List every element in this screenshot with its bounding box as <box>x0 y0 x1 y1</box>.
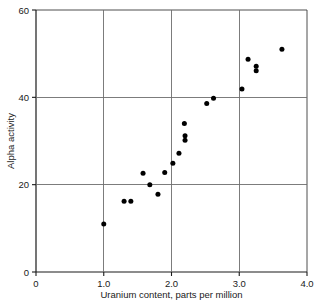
data-point <box>279 47 284 52</box>
data-point <box>254 64 259 69</box>
data-point <box>122 199 127 204</box>
data-point <box>147 182 152 187</box>
data-point <box>246 57 251 62</box>
data-point <box>239 87 244 92</box>
x-axis-title: Uranium content, parts per million <box>100 289 242 300</box>
data-point <box>204 101 209 106</box>
x-tick-label: 0 <box>33 278 38 289</box>
data-point <box>162 170 167 175</box>
y-tick-label: 40 <box>18 92 29 103</box>
data-point <box>101 221 106 226</box>
data-point-series <box>101 47 284 227</box>
y-axis-title: Alpha activity <box>5 113 16 169</box>
scatter-chart-figure: 0204060 01.02.03.04.0 Uranium content, p… <box>0 0 322 305</box>
data-point <box>141 171 146 176</box>
data-point <box>211 96 216 101</box>
y-tick-label: 20 <box>18 179 29 190</box>
x-tick-label: 4.0 <box>300 278 313 289</box>
grid-lines <box>36 10 307 272</box>
x-tick-label: 2.0 <box>165 278 178 289</box>
data-point <box>182 121 187 126</box>
y-axis-tick-labels: 0204060 <box>18 5 29 278</box>
x-tick-label: 3.0 <box>233 278 246 289</box>
x-tick-label: 1.0 <box>97 278 110 289</box>
y-tick-label: 0 <box>24 267 29 278</box>
tick-marks <box>32 10 307 276</box>
scatter-plot-canvas: 0204060 01.02.03.04.0 Uranium content, p… <box>0 0 322 305</box>
data-point <box>176 151 181 156</box>
data-point <box>183 138 188 143</box>
data-point <box>170 161 175 166</box>
data-point <box>254 68 259 73</box>
data-point <box>128 199 133 204</box>
data-point <box>183 133 188 138</box>
data-point <box>155 192 160 197</box>
x-axis-tick-labels: 01.02.03.04.0 <box>33 278 313 289</box>
y-tick-label: 60 <box>18 5 29 16</box>
